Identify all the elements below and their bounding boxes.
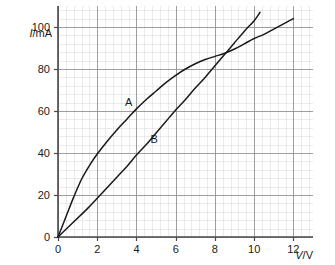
x-tick-label: 2 [94, 243, 100, 255]
chart-figure: 020406080100 024681012 AB I/mA V/V [0, 0, 335, 265]
x-tick-label: 8 [212, 243, 218, 255]
y-tick-label: 0 [44, 231, 50, 243]
x-axis-label: V/V [295, 249, 313, 261]
y-axis-label: I/mA [29, 27, 52, 39]
plot-background [58, 6, 313, 237]
x-axis-tick-labels: 024681012 [55, 243, 300, 255]
y-tick-label: 80 [38, 63, 50, 75]
y-tick-label: 60 [38, 105, 50, 117]
x-tick-label: 6 [173, 243, 179, 255]
y-axis-tick-labels: 020406080100 [32, 21, 50, 243]
x-tick-label: 10 [248, 243, 260, 255]
curve-label-a: A [125, 96, 133, 108]
x-tick-label: 4 [133, 243, 139, 255]
curve-label-b: B [150, 133, 157, 145]
y-tick-label: 40 [38, 147, 50, 159]
y-tick-label: 20 [38, 189, 50, 201]
iv-characteristic-chart: 020406080100 024681012 AB I/mA V/V [0, 0, 335, 265]
x-tick-label: 0 [55, 243, 61, 255]
